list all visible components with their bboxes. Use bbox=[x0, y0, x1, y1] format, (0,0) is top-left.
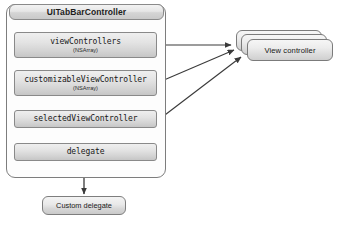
connector-selected-to-stack bbox=[157, 57, 241, 121]
property-type-label: (NSArray) bbox=[73, 47, 98, 54]
property-type-label: (NSArray) bbox=[73, 85, 98, 92]
diagram-canvas: UITabBarController viewControllers (NSAr… bbox=[0, 0, 337, 225]
property-selected-view-controller[interactable]: selectedViewController bbox=[14, 110, 157, 128]
property-name-label: viewControllers bbox=[50, 37, 121, 47]
property-delegate[interactable]: delegate bbox=[14, 143, 157, 161]
controller-title-bar: UITabBarController bbox=[9, 4, 164, 20]
view-controller-card-front[interactable]: View controller bbox=[247, 39, 333, 61]
controller-title-label: UITabBarController bbox=[47, 7, 127, 17]
custom-delegate-node[interactable]: Custom delegate bbox=[42, 196, 126, 215]
view-controller-stack[interactable]: View controller bbox=[236, 30, 334, 64]
view-controller-label: View controller bbox=[264, 46, 315, 55]
property-name-label: delegate bbox=[67, 147, 105, 157]
custom-delegate-label: Custom delegate bbox=[56, 201, 112, 210]
property-customizable-view-controller[interactable]: customizableViewController (NSArray) bbox=[14, 70, 157, 96]
property-name-label: selectedViewController bbox=[34, 114, 138, 124]
connector-customizable-to-stack bbox=[157, 50, 234, 83]
property-view-controllers[interactable]: viewControllers (NSArray) bbox=[14, 32, 157, 58]
property-name-label: customizableViewController bbox=[24, 75, 147, 85]
